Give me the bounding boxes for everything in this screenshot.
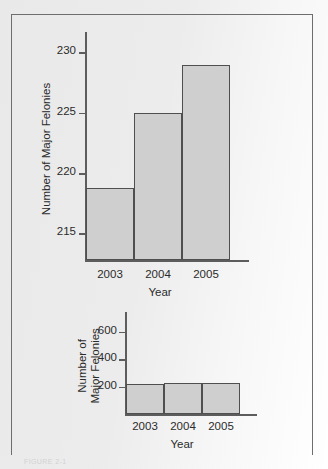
- x-axis-tick-label: 2005: [178, 268, 234, 280]
- y-axis-tick: [79, 173, 85, 175]
- x-axis-title: Year: [86, 286, 234, 298]
- y-axis-tick-label: 225: [57, 105, 76, 117]
- y-axis-tick: [79, 113, 85, 115]
- y-axis-tick-label: 200: [98, 379, 117, 391]
- y-axis-tick-label: 230: [57, 44, 76, 56]
- y-axis-title: Number of Major Felonies: [40, 83, 52, 215]
- x-axis-line: [125, 414, 257, 416]
- page-background: Number of Major Felonies 215220225230200…: [0, 0, 328, 469]
- x-axis-tick-label: 2005: [198, 420, 244, 432]
- y-axis-tick: [119, 332, 125, 334]
- x-axis-title: Year: [126, 438, 238, 450]
- plot-area: 215220225230200320042005: [86, 38, 234, 260]
- bar: [134, 113, 182, 260]
- y-axis-tick-label: 215: [57, 225, 76, 237]
- y-axis-tick-label: 600: [98, 324, 117, 336]
- bar-chart-zero-based-axis: Number of Major Felonies 200400600200320…: [0, 300, 328, 460]
- y-axis-tick: [79, 52, 85, 54]
- figure-caption: FIGURE 2-1: [24, 458, 67, 465]
- y-axis-tick-label: 220: [57, 165, 76, 177]
- bar: [164, 383, 202, 414]
- bar: [126, 384, 164, 414]
- bar: [202, 383, 240, 414]
- plot-area: 200400600200320042005: [126, 318, 238, 414]
- bar: [182, 65, 230, 260]
- y-axis-tick: [79, 233, 85, 235]
- y-axis-tick: [119, 359, 125, 361]
- y-axis-title: Number of Major Felonies: [75, 328, 101, 403]
- y-axis-tick: [119, 387, 125, 389]
- x-axis-line: [85, 260, 249, 262]
- y-axis-tick-label: 400: [98, 351, 117, 363]
- bar: [86, 188, 134, 260]
- bar-chart-truncated-axis: Number of Major Felonies 215220225230200…: [0, 0, 328, 300]
